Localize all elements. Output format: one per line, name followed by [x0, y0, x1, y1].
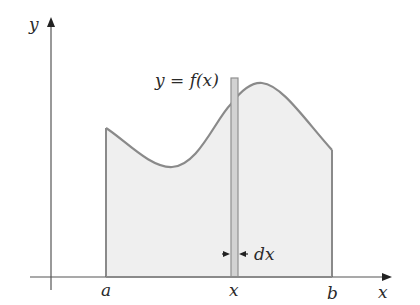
function-label: y = f(x): [154, 70, 219, 90]
dx-label: dx: [254, 244, 275, 264]
y-axis-arrow-icon: [47, 17, 55, 27]
y-axis-label: y: [28, 14, 39, 34]
dx-strip: [231, 78, 238, 277]
area-under-curve-diagram: y x a b x dx y = f(x): [0, 0, 420, 305]
shaded-area-region: [106, 83, 332, 277]
x-point-label: x: [229, 280, 239, 300]
a-label: a: [101, 280, 111, 300]
b-label: b: [327, 283, 338, 303]
x-axis-label: x: [378, 282, 388, 302]
x-axis-arrow-icon: [382, 273, 392, 281]
